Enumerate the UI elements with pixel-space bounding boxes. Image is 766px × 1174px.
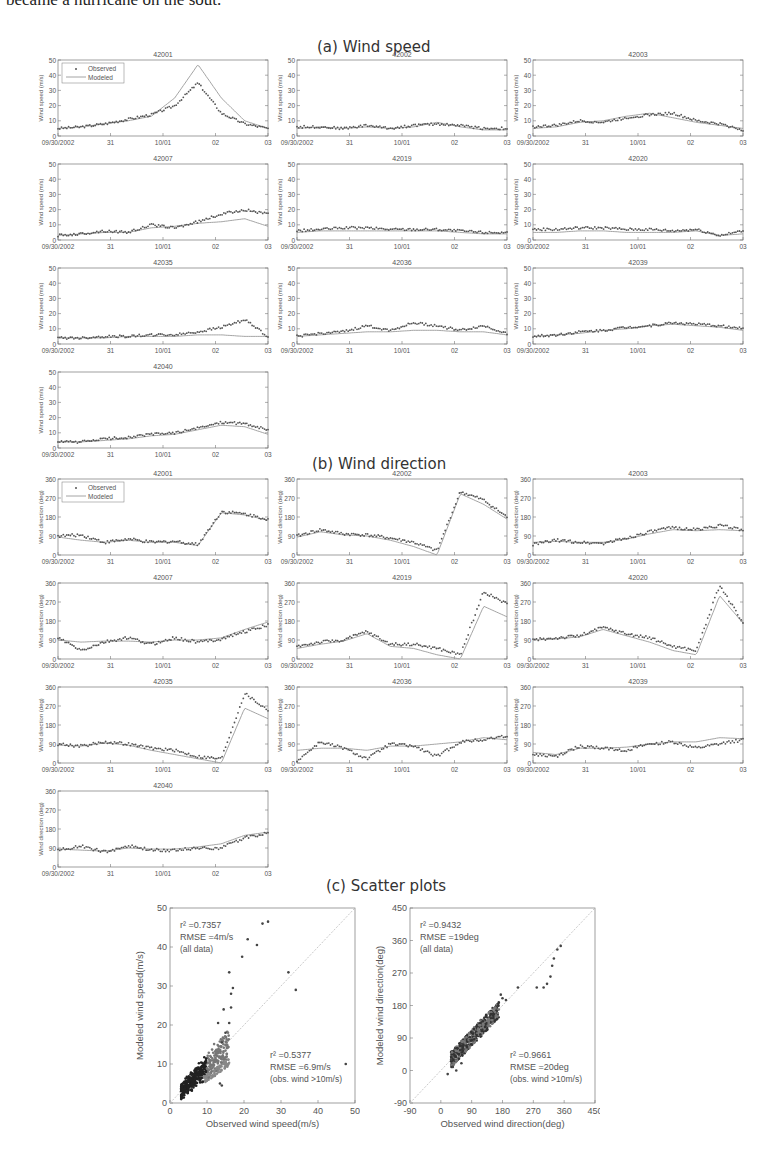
panel-42001: 4200109018027036009/30/20023110/010203Wi…: [32, 467, 272, 579]
y-axis-label: Wind speed (m/s): [277, 178, 283, 225]
y-axis-label: Wind direction (deg): [277, 490, 283, 544]
x-tick: 02: [212, 139, 220, 146]
x-tick: 02: [451, 243, 459, 250]
y-tick: 180: [284, 514, 295, 521]
x-tick: 10/01: [630, 139, 647, 146]
y-tick: 180: [45, 514, 56, 521]
subset-high-wind: (obs. wind >10m/s): [270, 1074, 342, 1084]
station-title: 42040: [153, 782, 173, 789]
y-tick: 90: [49, 637, 57, 644]
x-tick: 10/01: [155, 662, 172, 669]
y-tick: 360: [284, 476, 295, 483]
plot-frame: [533, 583, 743, 659]
y-tick: 20: [288, 206, 296, 213]
y-tick: 30: [49, 87, 57, 94]
y-tick: 40: [288, 280, 296, 287]
panel-42020: 4202009018027036009/30/20023110/010203Wi…: [507, 571, 747, 683]
x-tick: 02: [212, 451, 220, 458]
x-tick: 02: [687, 243, 695, 250]
scatter-wind-direction: -90-90009090180180270270360360450450Obse…: [370, 898, 600, 1168]
y-tick: 90: [288, 741, 296, 748]
y-tick: 20: [288, 102, 296, 109]
x-tick: 31: [346, 558, 354, 565]
x-tick: 31: [107, 139, 115, 146]
y-tick: 360: [45, 476, 56, 483]
x-tick: 09/30/2002: [517, 139, 550, 146]
x-tick: 02: [687, 139, 695, 146]
y-axis-label: Wind speed (m/s): [513, 282, 519, 329]
y-tick: 360: [284, 684, 295, 691]
panel-42019: 4201909018027036009/30/20023110/010203Wi…: [271, 571, 511, 683]
x-tick: 450: [587, 1106, 600, 1116]
x-tick: 10/01: [155, 347, 172, 354]
y-tick: 90: [288, 637, 296, 644]
y-tick: 20: [288, 310, 296, 317]
r2-high-wind: r² =0.5377: [270, 1050, 311, 1060]
plot-frame: [58, 372, 268, 448]
legend: ObservedModeled: [62, 63, 124, 83]
y-tick: 30: [288, 295, 296, 302]
y-tick: 10: [524, 221, 532, 228]
y-tick: 90: [49, 533, 57, 540]
y-axis-label: Wind direction (deg): [277, 698, 283, 752]
x-tick: 02: [687, 558, 695, 565]
x-tick: 31: [107, 243, 115, 250]
y-tick: 270: [284, 495, 295, 502]
x-tick: 09/30/2002: [42, 139, 75, 146]
station-title: 42036: [392, 259, 412, 266]
y-tick: 40: [524, 280, 532, 287]
x-tick: 31: [582, 347, 590, 354]
y-tick: 40: [288, 72, 296, 79]
y-axis-label: Wind direction (deg): [38, 490, 44, 544]
y-tick: 40: [49, 280, 57, 287]
y-axis-label: Wind speed (m/s): [38, 386, 44, 433]
panel-42003: 4200309018027036009/30/20023110/010203Wi…: [507, 467, 747, 579]
y-tick: 30: [288, 87, 296, 94]
subset-high-wind: (obs. wind >10m/s): [510, 1074, 582, 1084]
x-tick: 270: [526, 1106, 541, 1116]
y-tick: 30: [524, 87, 532, 94]
x-tick: 03: [739, 347, 747, 354]
panel-42002: 4200209018027036009/30/20023110/010203Wi…: [271, 467, 511, 579]
x-tick: 31: [346, 347, 354, 354]
y-tick: 40: [49, 72, 57, 79]
y-tick: 50: [524, 161, 532, 168]
x-tick: 02: [212, 870, 220, 877]
panel-42007: 420070102030405009/30/20023110/010203Win…: [32, 152, 272, 264]
y-tick: 270: [45, 599, 56, 606]
x-tick: 03: [264, 451, 272, 458]
y-tick: 180: [392, 1001, 407, 1011]
x-tick: 31: [107, 766, 115, 773]
rmse-all: RMSE =4m/s: [180, 932, 234, 942]
station-title: 42019: [392, 574, 412, 581]
x-tick: 02: [687, 662, 695, 669]
y-tick: 270: [284, 599, 295, 606]
plot-frame: [533, 687, 743, 763]
x-tick: 09/30/2002: [42, 558, 75, 565]
y-tick: 20: [524, 102, 532, 109]
y-tick: 90: [524, 533, 532, 540]
panel-42020: 420200102030405009/30/20023110/010203Win…: [507, 152, 747, 264]
station-title: 42002: [392, 51, 412, 58]
x-tick: 03: [739, 766, 747, 773]
x-tick: 20: [239, 1106, 249, 1116]
station-title: 42003: [628, 470, 648, 477]
y-tick: 180: [45, 618, 56, 625]
x-tick: 10: [202, 1106, 212, 1116]
y-tick: 180: [284, 722, 295, 729]
station-title: 42039: [628, 259, 648, 266]
panel-42039: 4203909018027036009/30/20023110/010203Wi…: [507, 675, 747, 787]
y-tick: 50: [524, 57, 532, 64]
panel-42036: 420360102030405009/30/20023110/010203Win…: [271, 256, 511, 368]
section-title-scatter-plots: (c) Scatter plots: [326, 877, 446, 895]
x-tick: 09/30/2002: [281, 558, 314, 565]
subset-all: (all data): [180, 944, 213, 954]
y-axis-label: Wind speed (m/s): [277, 282, 283, 329]
legend-modeled: Modeled: [88, 74, 113, 81]
y-tick: 40: [524, 72, 532, 79]
rmse-all: RMSE =19deg: [420, 932, 479, 942]
y-tick: 0: [402, 1066, 407, 1076]
y-tick: 90: [288, 533, 296, 540]
x-tick: 09/30/2002: [281, 766, 314, 773]
x-tick: 10/01: [394, 347, 411, 354]
